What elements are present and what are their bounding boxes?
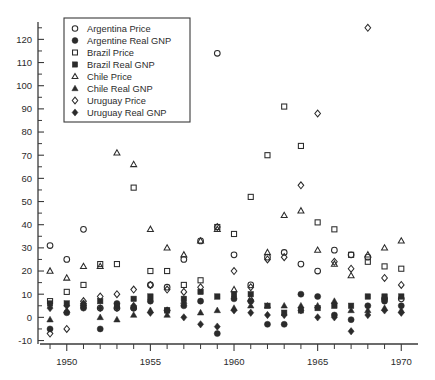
data-point <box>214 307 220 313</box>
data-point <box>165 268 170 273</box>
data-point <box>315 293 321 299</box>
data-point <box>131 286 137 293</box>
data-point <box>331 298 337 304</box>
data-point <box>64 275 70 280</box>
legend-label: Brazil Real GNP <box>87 60 155 70</box>
data-point <box>131 161 137 166</box>
data-point <box>47 243 53 249</box>
data-point <box>231 231 236 236</box>
data-point <box>81 282 86 287</box>
x-tick-label: 1970 <box>391 356 412 367</box>
data-point <box>97 314 103 320</box>
data-point <box>265 153 270 158</box>
legend-marker-square-filled <box>72 62 77 67</box>
data-point <box>147 309 153 316</box>
data-point <box>148 282 154 288</box>
data-point <box>197 309 203 315</box>
data-point <box>382 245 388 250</box>
data-point <box>131 296 136 301</box>
data-point <box>315 247 321 252</box>
data-point <box>399 266 404 271</box>
data-point <box>398 281 404 288</box>
data-point <box>298 208 304 213</box>
y-tick-label: 110 <box>17 57 32 68</box>
y-tick-label: 0 <box>27 312 32 323</box>
data-point <box>398 309 404 316</box>
legend-marker-circle-filled <box>72 38 78 44</box>
legend-label: Chile Price <box>87 72 132 82</box>
data-point <box>215 294 220 299</box>
data-point <box>315 220 320 225</box>
chart-legend: Argentina PriceArgentine Real GNPBrazil … <box>64 18 190 122</box>
data-point <box>64 257 70 263</box>
data-point <box>348 272 354 277</box>
data-point <box>131 185 136 190</box>
legend-label: Argentina Price <box>87 24 151 34</box>
data-point <box>181 282 186 287</box>
data-point <box>114 291 120 298</box>
data-point <box>231 268 237 275</box>
data-point <box>97 326 103 332</box>
x-axis: 19501955196019651970 <box>40 344 418 367</box>
data-point <box>382 264 387 269</box>
data-point <box>164 245 170 250</box>
data-point <box>198 321 204 328</box>
data-point <box>332 247 338 253</box>
chart-root: -100102030405060708090100110120 19501955… <box>0 0 435 380</box>
data-point <box>114 262 119 267</box>
data-point <box>198 298 204 304</box>
data-point <box>148 294 153 299</box>
y-tick-label: 50 <box>21 196 32 207</box>
data-point <box>214 50 220 56</box>
data-point <box>264 321 270 327</box>
data-point <box>198 278 203 283</box>
data-point <box>47 268 53 273</box>
data-point <box>148 268 153 273</box>
data-point <box>315 110 321 117</box>
scatter-plot: -100102030405060708090100110120 19501955… <box>0 0 435 380</box>
data-point <box>248 194 253 199</box>
y-tick-label: 60 <box>21 173 32 184</box>
x-tick-label: 1965 <box>307 356 328 367</box>
legend-label: Chile Real GNP <box>87 84 153 94</box>
y-tick-label: 30 <box>21 242 32 253</box>
x-tick-label: 1955 <box>140 356 161 367</box>
legend-label: Uruguay Price <box>87 96 146 106</box>
x-tick-label: 1960 <box>223 356 244 367</box>
legend-label: Argentine Real GNP <box>87 36 171 46</box>
y-tick-label: 10 <box>21 289 32 300</box>
data-point <box>64 325 70 332</box>
data-point <box>64 289 69 294</box>
data-point <box>181 314 187 321</box>
data-point <box>248 309 254 316</box>
data-point <box>332 227 337 232</box>
data-point <box>114 150 120 155</box>
data-point <box>382 275 388 282</box>
y-tick-label: 20 <box>21 265 32 276</box>
data-point <box>47 316 53 322</box>
data-point <box>298 143 303 148</box>
data-point <box>332 303 337 308</box>
data-point <box>81 226 87 232</box>
data-point <box>147 226 153 231</box>
data-point <box>298 182 304 189</box>
data-point <box>315 314 321 321</box>
data-point <box>214 331 220 337</box>
data-point <box>281 212 287 217</box>
y-axis: -100102030405060708090100110120 <box>16 22 44 346</box>
legend-label: Uruguay Real GNP <box>87 108 167 118</box>
data-point <box>130 312 136 318</box>
data-point <box>348 328 354 335</box>
y-tick-label: 40 <box>21 219 32 230</box>
y-tick-label: 80 <box>21 126 32 137</box>
x-tick-label: 1950 <box>56 356 77 367</box>
y-tick-label: -10 <box>18 335 32 346</box>
data-point <box>315 268 321 274</box>
data-point <box>382 307 388 314</box>
y-tick-label: 90 <box>21 103 32 114</box>
data-point <box>365 294 370 299</box>
data-point <box>282 104 287 109</box>
legend-label: Brazil Price <box>87 48 134 58</box>
data-point <box>231 252 237 258</box>
data-point <box>348 252 354 258</box>
